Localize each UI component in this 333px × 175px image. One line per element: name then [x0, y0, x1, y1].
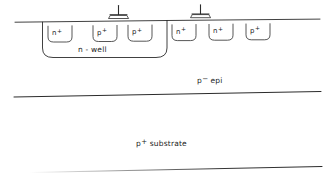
- diffusion-label-n-plus-3: n+: [213, 28, 223, 35]
- cross-section-svg: [0, 0, 333, 175]
- diffusion-label-p-plus-2: p+: [132, 29, 142, 36]
- epi-substrate-boundary: [14, 92, 321, 98]
- diffusion-label-n-plus-1: n+: [52, 30, 62, 37]
- diffusion-label-p-plus-1: p+: [97, 30, 107, 37]
- ground-contact-left[interactable]: [109, 6, 129, 19]
- region-label-n-well: n - well: [78, 46, 107, 54]
- region-label-p-substrate: p+ substrate: [136, 140, 187, 148]
- diffusion-label-p-plus-3: p+: [250, 28, 260, 35]
- region-label-p-epi: p− epi: [197, 77, 223, 85]
- diffusion-label-n-plus-2: n+: [176, 29, 186, 36]
- ground-contact-right[interactable]: [191, 5, 211, 18]
- diagram-canvas: n+ p+ p+ n+ n+ p+ n - well p− epi p+ sub…: [0, 0, 333, 175]
- substrate-bottom-edge: [30, 167, 322, 173]
- n-well-surface-line: [43, 21, 168, 22]
